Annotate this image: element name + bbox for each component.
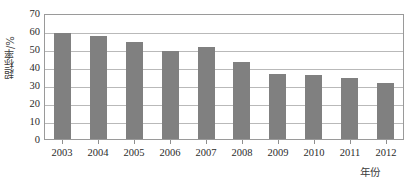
x-axis-tick-mark: [170, 140, 171, 144]
x-axis-tick-label: 2010: [296, 145, 332, 161]
bar: [126, 42, 143, 139]
x-axis-tick-mark-slot: [188, 140, 224, 144]
x-axis-tick-mark: [350, 140, 351, 144]
y-axis-tick-label: 0: [35, 135, 40, 146]
bar: [54, 33, 71, 139]
x-axis-tick-label: 2004: [80, 145, 116, 161]
y-axis-tick-label: 10: [30, 117, 41, 128]
bar-slot: [367, 15, 403, 139]
x-axis-tick-mark-slot: [296, 140, 332, 144]
x-axis-tick-label: 2011: [332, 145, 368, 161]
x-axis-tick-mark-slot: [116, 140, 152, 144]
bar: [90, 36, 107, 140]
x-axis-tick-marks: [44, 140, 404, 144]
x-axis-tick-mark-slot: [224, 140, 260, 144]
bar-slot: [117, 15, 153, 139]
bar-slot: [331, 15, 367, 139]
x-axis-tick-mark-slot: [332, 140, 368, 144]
x-axis-tick-label: 2005: [116, 145, 152, 161]
x-axis-tick-mark-slot: [44, 140, 80, 144]
x-axis-tick-mark-slot: [368, 140, 404, 144]
bar-chart: 超标率/% 706050403020100 200320042005200620…: [0, 0, 420, 189]
x-axis-tick-label: 2008: [224, 145, 260, 161]
x-axis-tick-labels: 2003200420052006200720082009201020112012: [44, 145, 404, 161]
bar: [198, 47, 215, 139]
bar: [341, 78, 358, 139]
x-axis-tick-label: 2012: [368, 145, 404, 161]
x-axis-tick-mark: [134, 140, 135, 144]
bar-slot: [152, 15, 188, 139]
y-axis-tick-label: 40: [30, 63, 41, 74]
bar: [269, 74, 286, 139]
bar-slot: [224, 15, 260, 139]
x-axis-tick-label: 2007: [188, 145, 224, 161]
y-axis-tick-label: 50: [30, 45, 41, 56]
bar-slot: [188, 15, 224, 139]
bar: [233, 62, 250, 139]
y-axis-tick-label: 20: [30, 99, 41, 110]
bar: [377, 83, 394, 139]
bar-slot: [296, 15, 332, 139]
y-axis-tick-label: 30: [30, 81, 41, 92]
y-axis-tick-labels: 706050403020100: [16, 14, 42, 140]
bar-slot: [260, 15, 296, 139]
x-axis-tick-mark: [278, 140, 279, 144]
x-axis-tick-label: 2009: [260, 145, 296, 161]
y-axis-tick-label: 60: [30, 27, 41, 38]
x-axis-tick-label: 2006: [152, 145, 188, 161]
x-axis-tick-mark: [386, 140, 387, 144]
x-axis-tick-mark: [206, 140, 207, 144]
bar: [305, 75, 322, 139]
x-axis-tick-mark: [62, 140, 63, 144]
bar-slot: [81, 15, 117, 139]
x-axis-tick-label: 2003: [44, 145, 80, 161]
x-axis-title: 年份: [330, 164, 410, 179]
x-axis-tick-mark-slot: [80, 140, 116, 144]
x-axis-tick-mark-slot: [260, 140, 296, 144]
bar: [162, 51, 179, 139]
plot-area: [44, 14, 404, 140]
bars-container: [45, 15, 403, 139]
bar-slot: [45, 15, 81, 139]
x-axis-tick-mark: [242, 140, 243, 144]
y-axis-tick-label: 70: [30, 9, 41, 20]
x-axis-tick-mark: [314, 140, 315, 144]
x-axis-tick-mark-slot: [152, 140, 188, 144]
x-axis-tick-mark: [98, 140, 99, 144]
